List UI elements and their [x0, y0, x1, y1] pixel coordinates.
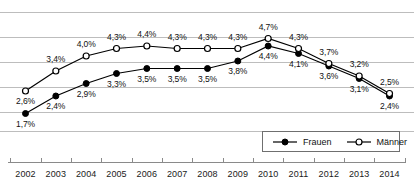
- x-axis-label-2005: 2005: [101, 169, 133, 179]
- x-axis-line: [8, 162, 406, 163]
- data-point-männer-2009: [235, 46, 241, 52]
- data-point-frauen-2010: [265, 43, 271, 49]
- x-axis-label-2006: 2006: [131, 169, 163, 179]
- x-axis-label-2012: 2012: [313, 169, 345, 179]
- data-label-männer-2005: 4,3%: [102, 32, 132, 42]
- x-axis-tick-10: [314, 158, 315, 162]
- data-label-männer-2003: 3,4%: [41, 54, 71, 64]
- legend-marker-filled-circle: [272, 136, 298, 148]
- data-label-frauen-2004: 2,9%: [71, 89, 101, 99]
- x-axis-label-2011: 2011: [283, 169, 315, 179]
- data-point-männer-2002: [23, 88, 29, 94]
- x-axis-tick-4: [132, 158, 133, 162]
- data-point-frauen-2009: [235, 58, 241, 64]
- x-axis-tick-13: [405, 158, 406, 162]
- data-label-frauen-2007: 3,5%: [162, 74, 192, 84]
- data-point-männer-2005: [114, 46, 120, 52]
- data-label-männer-2008: 4,3%: [193, 32, 223, 42]
- data-label-männer-2012: 3,7%: [314, 47, 344, 57]
- data-point-männer-2008: [205, 46, 211, 52]
- data-point-frauen-2003: [53, 93, 59, 99]
- x-axis-tick-9: [283, 158, 284, 162]
- data-label-frauen-2002: 1,7%: [11, 119, 41, 129]
- x-axis-label-2014: 2014: [374, 169, 406, 179]
- data-label-männer-2010: 4,7%: [253, 22, 283, 32]
- x-axis-tick-7: [223, 158, 224, 162]
- data-label-männer-2013: 3,2%: [344, 59, 374, 69]
- x-axis-label-2003: 2003: [40, 169, 72, 179]
- data-label-frauen-2003: 2,4%: [41, 101, 71, 111]
- data-point-frauen-2007: [174, 66, 180, 72]
- x-axis-tick-5: [162, 158, 163, 162]
- data-label-frauen-2012: 3,6%: [314, 71, 344, 81]
- x-axis-tick-11: [344, 158, 345, 162]
- data-label-männer-2004: 4,0%: [71, 39, 101, 49]
- data-point-frauen-2008: [205, 66, 211, 72]
- x-axis-tick-12: [374, 158, 375, 162]
- data-point-männer-2003: [53, 68, 59, 74]
- legend-marker-open-circle: [346, 136, 372, 148]
- x-axis-tick-3: [101, 158, 102, 162]
- chart-legend: FrauenMänner: [262, 131, 400, 152]
- data-point-frauen-2002: [23, 111, 29, 117]
- data-point-männer-2007: [174, 46, 180, 52]
- data-point-männer-2011: [296, 46, 302, 52]
- x-axis-label-2010: 2010: [252, 169, 284, 179]
- data-label-frauen-2010: 4,4%: [253, 51, 283, 61]
- data-point-männer-2010: [265, 36, 271, 42]
- data-label-frauen-2013: 3,1%: [344, 84, 374, 94]
- data-label-männer-2007: 4,3%: [162, 32, 192, 42]
- data-point-frauen-2006: [144, 66, 150, 72]
- x-axis-tick-1: [41, 158, 42, 162]
- data-point-männer-2013: [356, 73, 362, 79]
- data-label-frauen-2011: 4,1%: [284, 59, 314, 69]
- x-axis-label-2004: 2004: [70, 169, 102, 179]
- data-point-männer-2012: [326, 61, 332, 67]
- x-axis-tick-2: [71, 158, 72, 162]
- legend-item-männer[interactable]: Männer: [346, 136, 408, 148]
- data-label-frauen-2005: 3,3%: [102, 79, 132, 89]
- data-label-männer-2009: 4,3%: [223, 32, 253, 42]
- x-axis-label-2007: 2007: [161, 169, 193, 179]
- line-chart: 1,7%2,4%2,9%3,3%3,5%3,5%3,5%3,8%4,4%4,1%…: [0, 0, 414, 190]
- data-label-frauen-2014: 2,4%: [375, 101, 405, 111]
- data-label-männer-2014: 2,5%: [375, 77, 405, 87]
- data-label-frauen-2009: 3,8%: [223, 66, 253, 76]
- legend-item-frauen[interactable]: Frauen: [272, 136, 332, 148]
- data-point-männer-2014: [387, 91, 393, 97]
- data-point-männer-2004: [83, 53, 89, 59]
- x-axis-label-2008: 2008: [192, 169, 224, 179]
- x-axis-tick-0: [10, 158, 11, 162]
- legend-label-frauen: Frauen: [303, 137, 332, 147]
- data-label-frauen-2008: 3,5%: [193, 74, 223, 84]
- x-axis-tick-6: [192, 158, 193, 162]
- x-axis-tick-8: [253, 158, 254, 162]
- data-point-frauen-2005: [114, 71, 120, 77]
- data-label-frauen-2006: 3,5%: [132, 74, 162, 84]
- legend-label-männer: Männer: [377, 137, 408, 147]
- data-label-männer-2002: 2,6%: [11, 96, 41, 106]
- x-axis-label-2002: 2002: [10, 169, 42, 179]
- data-point-frauen-2004: [83, 81, 89, 87]
- x-axis-label-2013: 2013: [343, 169, 375, 179]
- data-label-männer-2006: 4,4%: [132, 29, 162, 39]
- data-label-männer-2011: 4,3%: [284, 32, 314, 42]
- data-point-männer-2006: [144, 43, 150, 49]
- x-axis-label-2009: 2009: [222, 169, 254, 179]
